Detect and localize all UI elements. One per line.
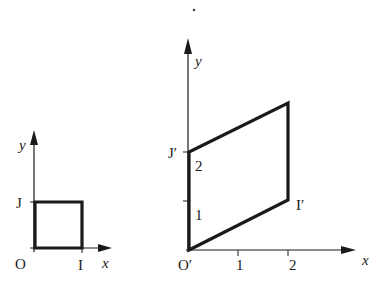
left-origin-label: O	[15, 256, 26, 272]
left-point-i-label: I	[78, 257, 83, 273]
left-point-j-label: J	[16, 195, 22, 211]
left-x-arrow-icon	[98, 244, 112, 252]
left-y-arrow-icon	[30, 130, 38, 145]
right-y-tick-label-1: 1	[195, 207, 203, 223]
right-x-axis-label: x	[361, 252, 369, 268]
left-x-axis-label: x	[101, 255, 109, 271]
unit-square	[35, 202, 82, 248]
right-y-tick-label-2: 2	[195, 158, 203, 174]
right-origin-label: O′	[178, 257, 192, 273]
diagram-canvas: y x O I J y x O′ 1 2 1 2 J′ I′	[0, 0, 384, 291]
right-x-tick-label-2: 2	[289, 257, 297, 273]
right-point-i-label: I′	[296, 197, 304, 213]
speck-mark	[193, 9, 195, 11]
right-x-arrow-icon	[341, 246, 356, 254]
right-y-arrow-icon	[184, 38, 192, 54]
right-y-axis-label: y	[193, 53, 202, 69]
right-point-j-label: J′	[168, 145, 177, 161]
right-figure: y x O′ 1 2 1 2 J′ I′	[168, 38, 369, 273]
left-y-axis-label: y	[17, 137, 26, 153]
transformed-parallelogram	[189, 103, 288, 250]
left-figure: y x O I J	[15, 130, 112, 273]
right-x-tick-label-1: 1	[236, 257, 244, 273]
